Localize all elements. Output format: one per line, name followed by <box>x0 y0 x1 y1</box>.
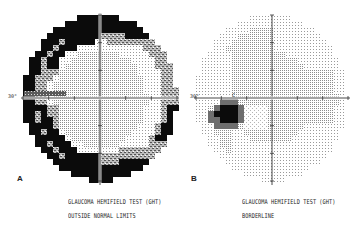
caption-a-line2: OUTSIDE NORMAL LIMITS <box>68 209 161 223</box>
caption-b-line1: GLAUCOMA HEMIFIELD TEST (GHT) <box>242 195 335 209</box>
axis-label-30deg-b: 30° <box>190 93 199 99</box>
caption-b: GLAUCOMA HEMIFIELD TEST (GHT) BORDERLINE <box>242 195 335 223</box>
axis-label-30deg-a: 30° <box>8 93 17 99</box>
caption-a-line1: GLAUCOMA HEMIFIELD TEST (GHT) <box>68 195 161 209</box>
scotoma-marker-label: C <box>232 92 235 98</box>
visual-field-map-b <box>181 0 362 228</box>
caption-b-line2: BORDERLINE <box>242 209 335 223</box>
visual-field-map-a <box>0 0 181 228</box>
visual-field-panel-a: 30° A GLAUCOMA HEMIFIELD TEST (GHT) OUTS… <box>0 0 181 228</box>
visual-field-panel-b: 30° C B GLAUCOMA HEMIFIELD TEST (GHT) BO… <box>181 0 362 228</box>
caption-a: GLAUCOMA HEMIFIELD TEST (GHT) OUTSIDE NO… <box>68 195 161 223</box>
panel-letter-a: A <box>17 174 23 183</box>
panel-letter-b: B <box>191 174 197 183</box>
